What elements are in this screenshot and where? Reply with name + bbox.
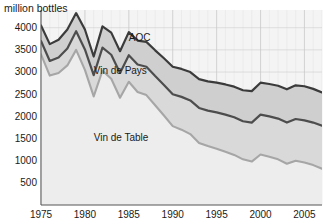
y-tick-label: 2500 <box>15 89 38 100</box>
x-tick-label: 2000 <box>249 209 272 220</box>
x-tick-label: 1975 <box>30 209 53 220</box>
series-annotation-vin-de-pays: Vin de Pays <box>94 65 147 76</box>
y-tick-label: 2000 <box>15 111 38 122</box>
x-tick-label: 1995 <box>206 209 229 220</box>
y-axis-title: million bottles <box>4 2 68 14</box>
x-tick-label: 1980 <box>74 209 97 220</box>
y-tick-label: 1000 <box>15 155 38 166</box>
x-tick-label: 1990 <box>162 209 185 220</box>
wine-production-area-chart: 5001000150020002500300035004000 19751980… <box>0 0 323 224</box>
y-tick-label: 4000 <box>15 22 38 33</box>
y-tick-label: 3500 <box>15 44 38 55</box>
y-tick-label: 1500 <box>15 133 38 144</box>
x-tick-label: 1985 <box>118 209 141 220</box>
series-annotation-vin-de-table: Vin de Table <box>94 132 149 143</box>
y-tick-label: 3000 <box>15 66 38 77</box>
series-annotation-aoc: AOC <box>129 32 151 43</box>
chart-container: 5001000150020002500300035004000 19751980… <box>0 0 323 224</box>
x-tick-label: 2005 <box>293 209 316 220</box>
y-tick-label: 500 <box>20 177 37 188</box>
